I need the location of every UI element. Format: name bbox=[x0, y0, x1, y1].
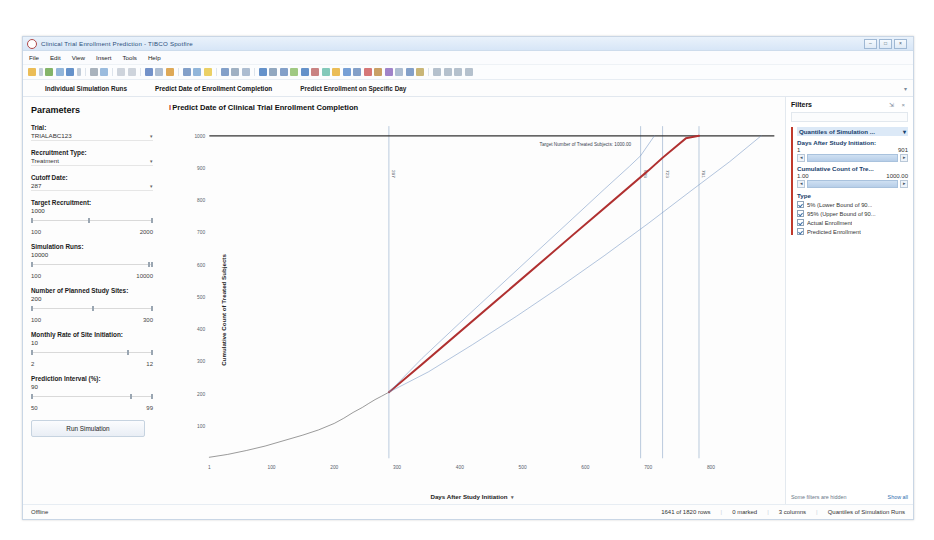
series-line[interactable] bbox=[389, 136, 654, 392]
reset-icon[interactable] bbox=[166, 68, 174, 76]
slider-control[interactable] bbox=[31, 393, 153, 402]
layout-grid-icon[interactable] bbox=[454, 68, 462, 76]
checkbox-icon[interactable] bbox=[797, 201, 804, 208]
open-file-icon[interactable] bbox=[28, 68, 36, 76]
slider-thumb-right[interactable] bbox=[151, 262, 153, 267]
filter-checkbox-item[interactable]: 95% (Upper Bound of 90... bbox=[797, 210, 908, 217]
chevron-down-icon[interactable] bbox=[77, 68, 81, 76]
slider-decrease-button[interactable]: ◂ bbox=[797, 154, 805, 162]
refresh-data-icon[interactable] bbox=[45, 68, 53, 76]
bar-chart-icon[interactable] bbox=[301, 68, 309, 76]
combination-chart-icon[interactable] bbox=[322, 68, 330, 76]
slider-increase-button[interactable]: ▸ bbox=[900, 154, 908, 162]
slider-thumb-mid[interactable] bbox=[127, 350, 129, 355]
slider-thumb-left[interactable] bbox=[31, 350, 33, 355]
menu-file[interactable]: File bbox=[29, 54, 39, 61]
slider-thumb-left[interactable] bbox=[31, 306, 33, 311]
slider-track[interactable] bbox=[807, 180, 898, 188]
graphical-table-icon[interactable] bbox=[290, 68, 298, 76]
parallel-coordinate-icon[interactable] bbox=[385, 68, 393, 76]
slider-thumb-right[interactable] bbox=[151, 350, 153, 355]
slider-track[interactable] bbox=[807, 154, 898, 162]
filter-checkbox-item[interactable]: Actual Enrollment bbox=[797, 219, 908, 226]
save-icon[interactable] bbox=[66, 68, 74, 76]
heat-map-icon[interactable] bbox=[374, 68, 382, 76]
slider-thumb-left[interactable] bbox=[31, 262, 33, 267]
menu-edit[interactable]: Edit bbox=[50, 54, 61, 61]
lightbulb-icon[interactable] bbox=[204, 68, 212, 76]
layout-split-icon[interactable] bbox=[444, 68, 452, 76]
tab-predict-date-of-enrollment-completion[interactable]: Predict Date of Enrollment Completion bbox=[141, 85, 286, 92]
series-line[interactable] bbox=[209, 392, 389, 457]
trial-dropdown[interactable]: TRIALABC123 ▾ bbox=[31, 132, 153, 141]
pie-chart-icon[interactable] bbox=[332, 68, 340, 76]
export-icon[interactable] bbox=[100, 68, 108, 76]
cutoff-date-dropdown[interactable]: 287 ▾ bbox=[31, 182, 153, 191]
filter-range-slider[interactable]: ◂ ▸ bbox=[797, 180, 908, 188]
slider-thumb-right[interactable] bbox=[151, 394, 153, 399]
tag-icon[interactable] bbox=[231, 68, 239, 76]
slider-thumb-left[interactable] bbox=[31, 218, 33, 223]
add-visualization-icon[interactable] bbox=[259, 68, 267, 76]
slider-increase-button[interactable]: ▸ bbox=[900, 180, 908, 188]
slider-thumb-mid[interactable] bbox=[130, 394, 132, 399]
filter-range-slider[interactable]: ◂ ▸ bbox=[797, 154, 908, 162]
marking-icon[interactable] bbox=[193, 68, 201, 76]
x-axis-label[interactable]: Days After Study Initiation▾ bbox=[163, 493, 781, 500]
summary-table-icon[interactable] bbox=[395, 68, 403, 76]
reload-icon[interactable] bbox=[56, 68, 64, 76]
redo-icon[interactable] bbox=[155, 68, 163, 76]
series-line[interactable] bbox=[389, 136, 699, 392]
text-area-icon[interactable] bbox=[416, 68, 424, 76]
treemap-icon[interactable] bbox=[364, 68, 372, 76]
filter-icon[interactable] bbox=[183, 68, 191, 76]
chevron-down-icon[interactable]: ▾ bbox=[904, 85, 907, 92]
close-button[interactable]: × bbox=[894, 39, 907, 49]
table-icon[interactable] bbox=[269, 68, 277, 76]
print-icon[interactable] bbox=[90, 68, 98, 76]
checkbox-icon[interactable] bbox=[797, 228, 804, 235]
map-chart-icon[interactable] bbox=[353, 68, 361, 76]
cross-table-icon[interactable] bbox=[280, 68, 288, 76]
panel-controls-icon[interactable]: ⇲ × bbox=[889, 101, 908, 108]
undo-icon[interactable] bbox=[145, 68, 153, 76]
maximize-button[interactable]: □ bbox=[879, 39, 892, 49]
menu-insert[interactable]: Insert bbox=[96, 54, 111, 61]
line-chart-icon[interactable] bbox=[311, 68, 319, 76]
slider-control[interactable] bbox=[31, 261, 153, 270]
slider-thumb-mid[interactable] bbox=[92, 306, 94, 311]
line-chart-svg[interactable]: 1002003004005006007008009001000110020030… bbox=[181, 117, 781, 482]
recruitment-type-dropdown[interactable]: Treatment ▾ bbox=[31, 157, 153, 166]
show-all-filters-link[interactable]: Show all bbox=[888, 494, 908, 500]
details-icon[interactable] bbox=[221, 68, 229, 76]
run-simulation-button[interactable]: Run Simulation bbox=[31, 420, 145, 437]
scatter-plot-icon[interactable] bbox=[343, 68, 351, 76]
filter-group-title[interactable]: Quantiles of Simulation ... ▾ bbox=[797, 127, 908, 136]
tab-individual-simulation-runs[interactable]: Individual Simulation Runs bbox=[31, 85, 141, 92]
chevron-down-icon[interactable] bbox=[39, 68, 43, 76]
plot-area[interactable]: Cumulative Count of Treated Subjects 100… bbox=[163, 117, 781, 502]
layout-single-icon[interactable] bbox=[433, 68, 441, 76]
filter-checkbox-item[interactable]: 5% (Lower Bound of 90... bbox=[797, 201, 908, 208]
tab-predict-enrollment-on-specific-day[interactable]: Predict Enrollment on Specific Day bbox=[286, 85, 420, 92]
layout-stack-icon[interactable] bbox=[465, 68, 473, 76]
copy-icon[interactable] bbox=[128, 68, 136, 76]
filter-checkbox-item[interactable]: Predicted Enrollment bbox=[797, 228, 908, 235]
slider-control[interactable] bbox=[31, 217, 153, 226]
slider-thumb-left[interactable] bbox=[31, 394, 33, 399]
menu-help[interactable]: Help bbox=[148, 54, 161, 61]
slider-control[interactable] bbox=[31, 305, 153, 314]
menu-view[interactable]: View bbox=[72, 54, 85, 61]
minimize-button[interactable]: – bbox=[864, 39, 877, 49]
box-plot-icon[interactable] bbox=[406, 68, 414, 76]
cut-icon[interactable] bbox=[117, 68, 125, 76]
checkbox-icon[interactable] bbox=[797, 210, 804, 217]
slider-thumb-mid[interactable] bbox=[148, 262, 150, 267]
slider-thumb-mid[interactable] bbox=[88, 218, 90, 223]
menu-tools[interactable]: Tools bbox=[122, 54, 136, 61]
checkbox-icon[interactable] bbox=[797, 219, 804, 226]
slider-thumb-right[interactable] bbox=[151, 306, 153, 311]
slider-control[interactable] bbox=[31, 349, 153, 358]
slider-thumb-right[interactable] bbox=[151, 218, 153, 223]
filters-search-input[interactable] bbox=[791, 112, 908, 122]
